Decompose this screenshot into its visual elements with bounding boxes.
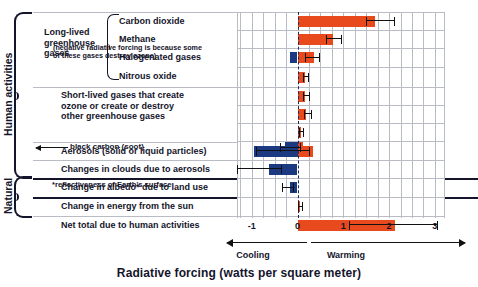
error-bar-cap-low <box>304 110 305 119</box>
bar-row <box>238 105 444 123</box>
x-axis-tick-0: 0 <box>295 221 300 231</box>
error-bar <box>237 168 282 169</box>
row-label-short-lived-gases: Short-lived gases that create ozone or c… <box>33 87 261 141</box>
radiative-forcing-chart: Human activities Natural Long-lived gree… <box>0 0 478 287</box>
error-bar-cap-high <box>308 73 309 82</box>
row-label-text: Changes in clouds due to aerosols <box>61 164 210 175</box>
bar-row <box>238 123 444 141</box>
error-bar <box>282 187 293 188</box>
bar-row <box>238 178 444 197</box>
bar-row <box>238 67 444 87</box>
row-label-text-line1: Short-lived gases that create <box>61 90 184 101</box>
annotation-black-carbon: black carbon (soot) <box>70 143 144 151</box>
axis-label-cooling: Cooling <box>236 250 270 260</box>
row-label-net-total: Net total due to human activities <box>33 216 261 234</box>
bar-negative <box>290 52 297 63</box>
annotation-albedo-footnote: *reflectiveness of Earth's surface <box>52 181 172 189</box>
row-label-sun: Change in energy from the sun <box>33 197 261 215</box>
bar-row <box>238 12 444 30</box>
error-bar-cap-high <box>302 202 303 211</box>
axis-label-warming: Warming <box>327 250 365 260</box>
brace-natural <box>14 176 32 218</box>
error-bar-cap-low <box>282 183 283 192</box>
separator <box>33 87 261 88</box>
separator <box>33 160 261 161</box>
row-label-text-line2: ozone or create or destroy <box>61 101 184 112</box>
bar-row <box>238 30 444 48</box>
error-bar <box>304 113 311 114</box>
error-bar <box>305 57 320 58</box>
error-bar-cap-high <box>311 110 312 119</box>
error-bar-cap-high <box>319 53 320 62</box>
error-bar-cap-low <box>256 147 257 156</box>
axis-direction-arrows <box>213 236 465 250</box>
separator <box>33 12 261 13</box>
error-bar-cap-high <box>341 35 342 44</box>
error-bar-cap-high <box>281 165 282 174</box>
error-bar-cap-high <box>303 128 304 137</box>
error-bar-cap-low <box>298 202 299 211</box>
cooling-arrow-icon <box>227 242 307 243</box>
error-bar-cap-high <box>309 92 310 101</box>
error-bar-cap-high <box>293 183 294 192</box>
separator <box>33 216 261 217</box>
error-bar-cap-high <box>394 17 395 26</box>
error-bar-cap-high <box>309 147 310 156</box>
row-label-aerosols: Aerosols (solid or liquid particles) <box>33 142 261 160</box>
row-label-carbon-dioxide: Carbon dioxide <box>33 12 261 30</box>
error-bar-cap-low <box>366 17 367 26</box>
bar-row <box>238 142 444 160</box>
x-axis-tick-labels: -10123 <box>237 221 445 234</box>
x-axis-title: Radiative forcing (watts per square mete… <box>0 266 478 280</box>
error-bar <box>256 150 309 151</box>
warming-arrow-icon <box>311 242 465 243</box>
row-label-text: Change in energy from the sun <box>61 201 194 212</box>
x-axis-tick-1: 1 <box>341 221 346 231</box>
error-bar-cap-low <box>305 53 306 62</box>
row-label-clouds: Changes in clouds due to aerosols <box>33 160 261 178</box>
plot-area <box>237 12 445 218</box>
row-label-text: Net total due to human activities <box>61 220 200 231</box>
bar-row <box>238 197 444 216</box>
row-label-text-line3: other greenhouse gases <box>61 111 184 122</box>
error-bar-cap-low <box>237 165 238 174</box>
error-bar-cap-low <box>303 92 304 101</box>
bar-positive <box>298 16 376 27</box>
error-bar-cap-low <box>299 128 300 137</box>
bar-row <box>238 160 444 178</box>
error-bar <box>280 147 300 148</box>
error-bar-cap-low <box>326 35 327 44</box>
separator <box>33 142 261 143</box>
error-bar <box>366 20 393 21</box>
error-bar <box>349 224 437 225</box>
error-bar-cap-low <box>303 73 304 82</box>
row-label-text: Nitrous oxide <box>119 71 177 82</box>
annotation-halogenated-note: (negative radiative forcing is because s… <box>53 44 205 61</box>
bar-row <box>238 48 444 67</box>
x-axis-tick--1: -1 <box>248 221 256 231</box>
row-label-text: Carbon dioxide <box>119 16 185 27</box>
error-bar-cap-low <box>349 221 350 230</box>
row-label-nitrous-oxide: Nitrous oxide <box>33 67 261 86</box>
black-carbon-arrow-icon <box>36 147 68 148</box>
zero-reference-line <box>298 12 299 218</box>
brace-human-activities <box>14 12 32 179</box>
error-bar-cap-high <box>437 221 438 230</box>
error-bar <box>326 38 340 39</box>
bar-row <box>238 87 444 105</box>
x-axis-tick-2: 2 <box>387 221 392 231</box>
